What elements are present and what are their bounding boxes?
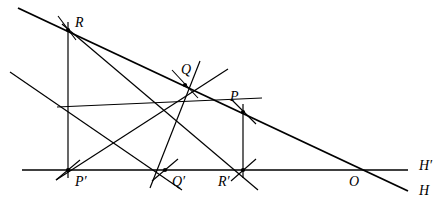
geometry-diagram xyxy=(0,0,448,224)
point-label-P: P xyxy=(230,90,239,104)
point-marker-Q xyxy=(183,83,187,87)
point-marker-Rp xyxy=(241,168,245,172)
line-Q-prime-diagonal xyxy=(10,72,182,190)
point-label-Rp: R′ xyxy=(218,175,230,189)
line-Q-to-Q-prime xyxy=(150,61,200,188)
point-marker-P xyxy=(241,110,245,114)
point-label-O: O xyxy=(349,175,359,189)
point-label-Q: Q xyxy=(181,63,191,77)
figure-canvas: RQPP′Q′R′OH′H xyxy=(0,0,448,224)
axis-label-Hp: H′ xyxy=(419,159,432,173)
axis-label-H: H xyxy=(419,184,429,198)
point-marker-Qp xyxy=(163,168,167,172)
point-marker-Pp xyxy=(66,168,70,172)
point-label-R: R xyxy=(75,16,84,30)
point-marker-R xyxy=(66,28,70,32)
point-label-Qp: Q′ xyxy=(172,175,185,189)
lines-group xyxy=(10,8,408,191)
point-label-Pp: P′ xyxy=(75,175,87,189)
line-P-prime-to-Q xyxy=(56,69,228,180)
